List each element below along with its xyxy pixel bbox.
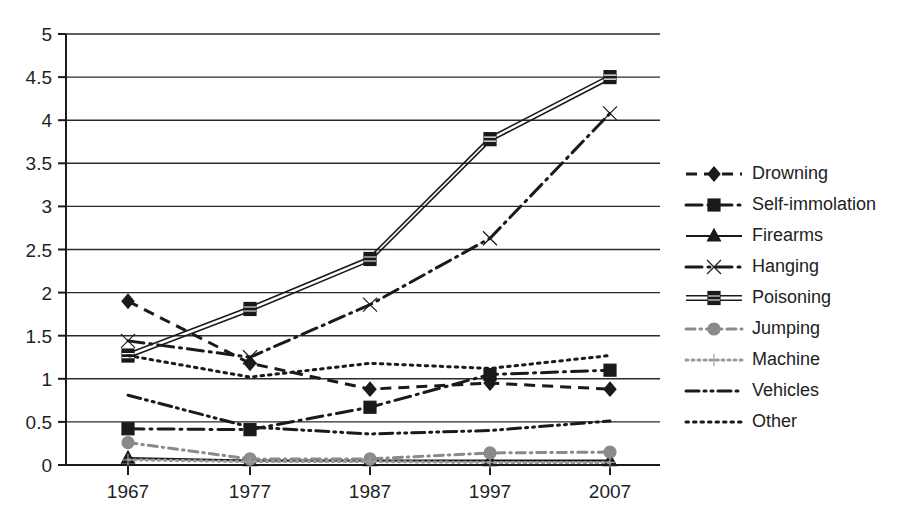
data-point-diamond <box>122 294 134 308</box>
data-point-square-double <box>604 71 616 84</box>
data-point-square-double <box>244 302 256 315</box>
y-tick-label: 0.5 <box>26 412 52 433</box>
series-line <box>128 356 610 378</box>
data-point-square <box>364 401 376 413</box>
x-tick-label: 1997 <box>469 481 511 502</box>
x-tick-label: 1967 <box>107 481 149 502</box>
y-tick-label: 2.5 <box>26 240 52 261</box>
data-point-diamond <box>364 382 376 396</box>
y-tick-label: 1 <box>41 369 52 390</box>
data-point-square-double <box>364 252 376 265</box>
y-tick-label: 0 <box>41 455 52 476</box>
data-point-circle <box>604 446 616 458</box>
legend-label: Self-immolation <box>752 194 876 214</box>
y-axis-tick-labels: 00.511.522.533.544.55 <box>26 24 53 476</box>
data-point-square-double <box>484 133 496 146</box>
y-tick-label: 2 <box>41 283 52 304</box>
y-tick-label: 3.5 <box>26 153 52 174</box>
series-other <box>128 356 610 378</box>
chart-canvas: 00.511.522.533.544.55 196719771987199720… <box>0 0 897 525</box>
data-point-diamond <box>708 167 720 181</box>
data-point-square-double <box>708 292 720 305</box>
data-point-square <box>708 199 720 211</box>
legend-label: Machine <box>752 349 820 369</box>
x-tick-label: 2007 <box>589 481 631 502</box>
y-tick-label: 5 <box>41 24 52 45</box>
x-tick-label: 1987 <box>349 481 391 502</box>
legend-item-jumping[interactable]: Jumping <box>686 318 820 338</box>
series-poisoning <box>122 71 616 362</box>
legend-label: Poisoning <box>752 287 831 307</box>
data-point-plus <box>604 456 616 468</box>
data-point-circle <box>708 323 720 335</box>
legend-item-other[interactable]: Other <box>686 411 797 431</box>
series-line <box>128 79 610 357</box>
x-axis-tick-labels: 19671977198719972007 <box>107 465 631 502</box>
y-tick-label: 4.5 <box>26 67 52 88</box>
legend-item-poisoning[interactable]: Poisoning <box>686 287 831 307</box>
data-point-cross <box>483 231 497 245</box>
data-point-square <box>604 364 616 376</box>
legend-label: Vehicles <box>752 380 819 400</box>
legend-item-machine[interactable]: Machine <box>686 349 820 369</box>
legend-label: Jumping <box>752 318 820 338</box>
legend-label: Other <box>752 411 797 431</box>
legend-item-firearms[interactable]: Firearms <box>686 225 823 245</box>
data-point-cross <box>363 298 377 312</box>
data-point-square <box>484 368 496 380</box>
legend-label: Drowning <box>752 163 828 183</box>
data-point-circle <box>122 437 134 449</box>
y-tick-label: 1.5 <box>26 326 52 347</box>
series-line <box>128 301 610 389</box>
series-line <box>128 113 610 357</box>
series-hanging <box>121 106 617 364</box>
data-point-cross <box>603 106 617 120</box>
legend-label: Hanging <box>752 256 819 276</box>
y-tick-label: 4 <box>41 110 52 131</box>
data-point-plus <box>484 456 496 468</box>
legend-label: Firearms <box>752 225 823 245</box>
legend-item-self-immolation[interactable]: Self-immolation <box>686 194 876 214</box>
legend-item-drowning[interactable]: Drowning <box>686 163 828 183</box>
series-drowning <box>122 294 616 396</box>
x-tick-label: 1977 <box>229 481 271 502</box>
y-tick-label: 3 <box>41 196 52 217</box>
data-point-diamond <box>604 382 616 396</box>
legend-item-vehicles[interactable]: Vehicles <box>686 380 819 400</box>
gridlines <box>66 34 660 422</box>
line-chart: 00.511.522.533.544.55 196719771987199720… <box>0 0 897 525</box>
legend-item-hanging[interactable]: Hanging <box>686 256 819 276</box>
data-series <box>121 71 617 469</box>
data-point-square <box>122 423 134 435</box>
data-point-plus <box>708 354 720 366</box>
legend: DrowningSelf-immolationFirearmsHangingPo… <box>686 163 876 431</box>
